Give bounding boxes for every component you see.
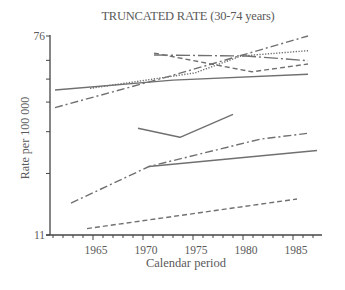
data-line-series-3 bbox=[90, 51, 308, 89]
data-line-series-7 bbox=[71, 133, 307, 203]
y-tick-label: 76 bbox=[34, 30, 46, 42]
plot-area: 117619651970197519801985 bbox=[0, 0, 345, 290]
data-line-series-2 bbox=[55, 36, 308, 108]
data-lines bbox=[55, 36, 317, 229]
x-tick-label: 1985 bbox=[285, 244, 308, 256]
data-line-series-9 bbox=[87, 199, 297, 229]
x-tick-label: 1965 bbox=[85, 244, 108, 256]
chart: TRUNCATED RATE (30-74 years) Rate per 10… bbox=[0, 0, 345, 290]
x-tick-label: 1980 bbox=[235, 244, 258, 256]
axes: 117619651970197519801985 bbox=[34, 30, 323, 256]
data-line-series-6 bbox=[138, 114, 233, 137]
x-tick-label: 1970 bbox=[135, 244, 158, 256]
x-tick-label: 1975 bbox=[185, 244, 208, 256]
y-tick-label: 11 bbox=[34, 229, 45, 241]
data-line-series-8 bbox=[149, 151, 317, 167]
